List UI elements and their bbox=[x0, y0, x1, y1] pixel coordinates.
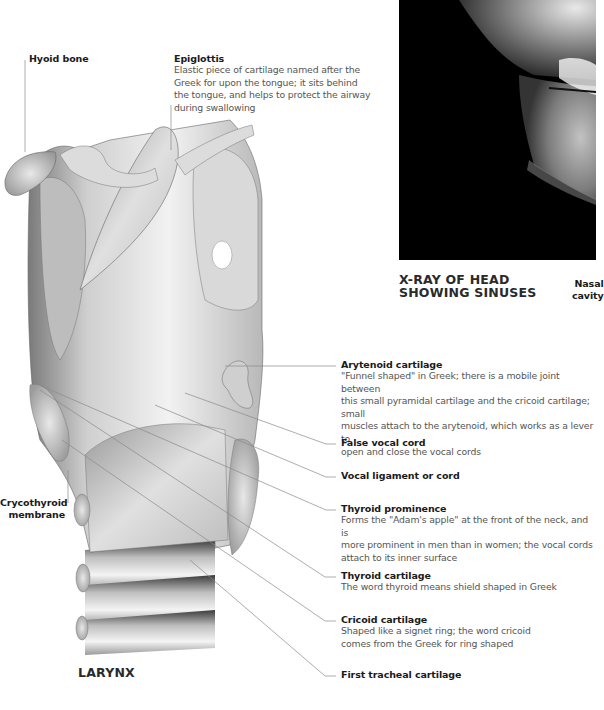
cricoid-cartilage-body-line: comes from the Greek for ring shaped bbox=[341, 638, 596, 651]
nasal-cavity-line2: cavity bbox=[572, 290, 604, 302]
nasal-cavity-label: Nasal cavity bbox=[572, 278, 604, 302]
thyroid-cartilage-body-line: The word thyroid means shield shaped in … bbox=[341, 581, 596, 594]
label-epiglottis: Epiglottis Elastic piece of cartilage na… bbox=[174, 53, 404, 114]
xray-title-line2: SHOWING SINUSES bbox=[399, 286, 536, 299]
epiglottis-title: Epiglottis bbox=[174, 53, 404, 64]
label-thyroid-prominence: Thyroid prominence Forms the "Adam's app… bbox=[341, 503, 596, 564]
larynx-title: LARYNX bbox=[78, 666, 135, 679]
label-thyroid-cartilage: Thyroid cartilage The word thyroid means… bbox=[341, 570, 596, 594]
epiglottis-body-line: during swallowing bbox=[174, 102, 404, 115]
epiglottis-body: Elastic piece of cartilage named after t… bbox=[174, 64, 404, 114]
label-first-tracheal-cartilage: First tracheal cartilage bbox=[341, 669, 596, 680]
label-hyoid-bone: Hyoid bone bbox=[29, 53, 89, 64]
epiglottis-body-line: Elastic piece of cartilage named after t… bbox=[174, 64, 404, 77]
epiglottis-body-line: Greek for upon the tongue; it sits behin… bbox=[174, 77, 404, 90]
xray-title: X-RAY OF HEAD SHOWING SINUSES bbox=[399, 273, 536, 299]
arytenoid-title: Arytenoid cartilage bbox=[341, 359, 596, 370]
label-crycothyroid-membrane: Crycothyroid membrane bbox=[0, 497, 65, 521]
label-false-vocal-cord: False vocal cord bbox=[341, 437, 596, 448]
arytenoid-body-line: this small pyramidal cartilage and the c… bbox=[341, 395, 596, 420]
cricoid-cartilage-body: Shaped like a signet ring; the word cric… bbox=[341, 625, 596, 650]
xray-image bbox=[399, 0, 596, 260]
thyroid-prominence-body-line: more prominent in men than in women; the… bbox=[341, 539, 596, 552]
epiglottis-body-line: the tongue, and helps to protect the air… bbox=[174, 89, 404, 102]
thyroid-prominence-body: Forms the "Adam's apple" at the front of… bbox=[341, 514, 596, 564]
cricoid-cartilage-body-line: Shaped like a signet ring; the word cric… bbox=[341, 625, 596, 638]
label-vocal-ligament: Vocal ligament or cord bbox=[341, 470, 596, 481]
thyroid-prominence-title: Thyroid prominence bbox=[341, 503, 596, 514]
thyroid-prominence-body-line: attach to its inner surface bbox=[341, 552, 596, 565]
thyroid-cartilage-title: Thyroid cartilage bbox=[341, 570, 596, 581]
cricoid-cartilage-title: Cricoid cartilage bbox=[341, 614, 596, 625]
thyroid-prominence-body-line: Forms the "Adam's apple" at the front of… bbox=[341, 514, 596, 539]
arytenoid-body-line: "Funnel shaped" in Greek; there is a mob… bbox=[341, 370, 596, 395]
label-cricoid-cartilage: Cricoid cartilage Shaped like a signet r… bbox=[341, 614, 596, 650]
crycothyroid-line1: Crycothyroid bbox=[0, 497, 65, 509]
crycothyroid-line2: membrane bbox=[0, 509, 65, 521]
thyroid-cartilage-body: The word thyroid means shield shaped in … bbox=[341, 581, 596, 594]
trachea-rings bbox=[85, 540, 215, 655]
nasal-cavity-line1: Nasal bbox=[572, 278, 604, 290]
